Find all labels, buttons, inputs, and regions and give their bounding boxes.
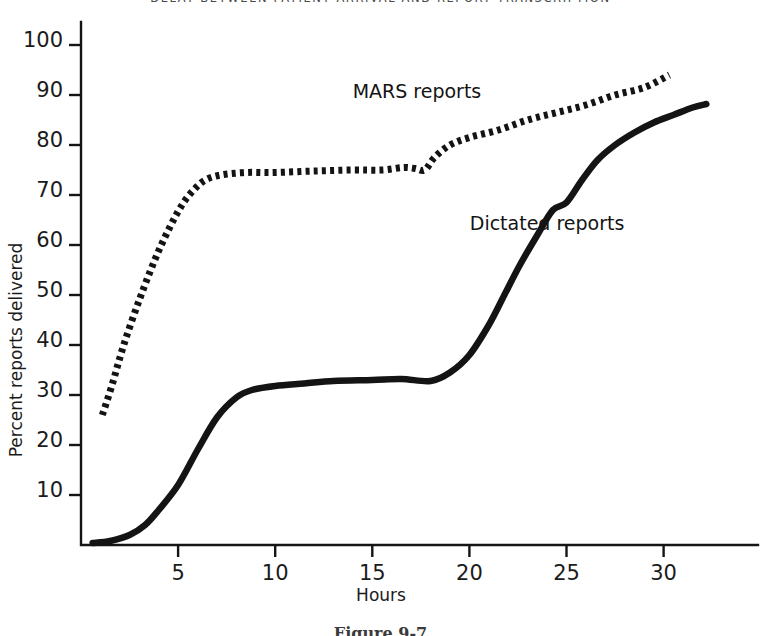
x-tick-label: 5 xyxy=(171,561,184,585)
y-tick-label: 100 xyxy=(23,28,63,52)
y-tick-label: 90 xyxy=(36,78,63,102)
x-tick-label: 15 xyxy=(359,561,386,585)
x-tick-label: 30 xyxy=(650,561,677,585)
y-tick-label: 40 xyxy=(36,328,63,352)
y-tick-label: 60 xyxy=(36,228,63,252)
x-axis-tick-labels: 51015202530 xyxy=(171,561,677,585)
y-axis-ticks xyxy=(69,45,81,495)
x-tick-label: 25 xyxy=(553,561,580,585)
y-tick-label: 50 xyxy=(36,278,63,302)
y-tick-label: 80 xyxy=(36,128,63,152)
series-label-dictated-reports: Dictated reports xyxy=(470,212,625,234)
y-tick-label: 30 xyxy=(36,378,63,402)
figure-page: DELAY BETWEEN PATIENT ARRIVAL AND REPORT… xyxy=(0,0,761,636)
y-tick-label: 70 xyxy=(36,178,63,202)
x-axis-title: Hours xyxy=(356,585,406,605)
chart-plot-area: 102030405060708090100 51015202530 MARS r… xyxy=(0,0,761,636)
x-tick-label: 10 xyxy=(262,561,289,585)
x-axis-ticks xyxy=(178,545,663,557)
y-axis-title: Percent reports delivered xyxy=(6,243,26,458)
figure-caption: Figure 9-7 xyxy=(0,624,761,636)
y-axis-tick-labels: 102030405060708090100 xyxy=(23,28,63,502)
x-tick-label: 20 xyxy=(456,561,483,585)
chart-series-mars-reports xyxy=(102,75,669,415)
y-tick-label: 10 xyxy=(36,478,63,502)
series-label-mars-reports: MARS reports xyxy=(353,80,482,102)
chart-series-group xyxy=(93,75,707,543)
y-tick-label: 20 xyxy=(36,428,63,452)
